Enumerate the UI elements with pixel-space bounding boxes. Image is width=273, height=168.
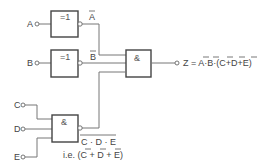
- input-terminal-c: [21, 103, 25, 107]
- output-terminal-z: [175, 61, 179, 65]
- nand-equivalent-expression: i.e. (C + D + E): [63, 150, 123, 160]
- signal-label-not-a: A: [89, 12, 95, 22]
- output-expression: Z = A·B·(C+D+E): [183, 58, 252, 68]
- gate-and-final-symbol: &: [134, 53, 140, 63]
- gate-nand-cde-symbol: &: [61, 117, 67, 127]
- gate-not-b-symbol: =1: [60, 52, 70, 62]
- input-label-d: D: [14, 124, 21, 134]
- input-terminal-a: [35, 22, 39, 26]
- nand-expression: C · D · E: [81, 137, 116, 147]
- inversion-bubble-cde: [78, 126, 82, 130]
- input-label-c: C: [14, 100, 21, 110]
- logic-circuit-diagram: A =1 A B =1 B & Z = A·B·(C+D+E) C D E: [0, 0, 273, 168]
- input-label-e: E: [14, 152, 20, 162]
- gate-not-a-symbol: =1: [60, 12, 70, 22]
- signal-label-not-b: B: [90, 52, 96, 62]
- input-terminal-b: [35, 61, 39, 65]
- inversion-bubble-b: [78, 61, 82, 65]
- inversion-bubble-a: [78, 22, 82, 26]
- input-terminal-d: [21, 127, 25, 131]
- input-label-b: B: [27, 58, 33, 68]
- input-terminal-e: [21, 155, 25, 159]
- input-label-a: A: [27, 19, 33, 29]
